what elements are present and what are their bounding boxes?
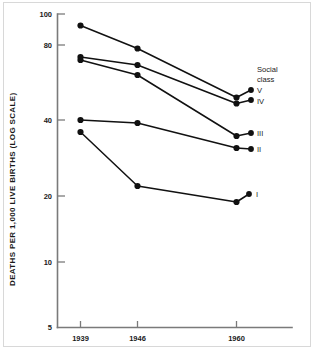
y-tick-label-100: 100	[39, 10, 52, 19]
series-II-line	[81, 120, 237, 148]
legend: Social class V IV III II I	[256, 65, 278, 199]
y-axis-title: DEATHS PER 1,000 LIVE BIRTHS (LOG SCALE)	[8, 93, 17, 286]
series-IV-line	[81, 57, 237, 104]
legend-title-line-1: Social	[257, 65, 278, 74]
line-chart: 100 80 40 20 10 5 1939 1946 1960 DEATHS …	[0, 0, 315, 351]
legend-label-II: II	[257, 145, 261, 154]
series-V-point-1939	[77, 22, 83, 28]
y-tick-label-5: 5	[48, 323, 52, 332]
x-tick-marks	[81, 321, 237, 328]
series-III	[77, 57, 254, 139]
series-III-point-1939	[77, 57, 83, 63]
figure-container: 100 80 40 20 10 5 1939 1946 1960 DEATHS …	[0, 0, 315, 351]
series-III-line	[81, 60, 237, 136]
legend-label-I: I	[256, 190, 258, 199]
y-tick-label-40: 40	[44, 116, 52, 125]
x-tick-labels: 1939 1946 1960	[72, 334, 245, 343]
series-IV-point-1946	[134, 62, 140, 68]
series-II-point-1946	[134, 120, 140, 126]
series-V-line	[81, 26, 237, 98]
series-I-point-1939	[77, 129, 83, 135]
series-II	[77, 117, 254, 152]
series-III-point-1946	[134, 72, 140, 78]
y-tick-label-80: 80	[44, 41, 52, 50]
series-V	[77, 22, 254, 100]
series-V-point-1946	[134, 45, 140, 51]
y-tick-marks	[58, 14, 66, 262]
legend-title-line-2: class	[257, 75, 275, 84]
series-I	[77, 129, 252, 205]
y-tick-label-10: 10	[44, 258, 52, 267]
x-tick-label-1946: 1946	[129, 334, 146, 343]
x-tick-label-1939: 1939	[72, 334, 89, 343]
series-II-leader-dot	[248, 146, 254, 152]
series-I-point-1946	[134, 183, 140, 189]
series-I-leader-dot	[246, 191, 252, 197]
y-tick-label-20: 20	[44, 192, 52, 201]
legend-label-III: III	[257, 129, 263, 138]
legend-label-IV: IV	[257, 97, 265, 106]
series-III-leader-dot	[248, 130, 254, 136]
series-IV-leader-dot	[248, 97, 254, 103]
series-II-point-1939	[77, 117, 83, 123]
x-tick-label-1960: 1960	[228, 334, 245, 343]
legend-label-V: V	[257, 86, 263, 95]
series-V-leader-dot	[248, 87, 254, 93]
y-tick-labels: 100 80 40 20 10 5	[39, 10, 52, 333]
